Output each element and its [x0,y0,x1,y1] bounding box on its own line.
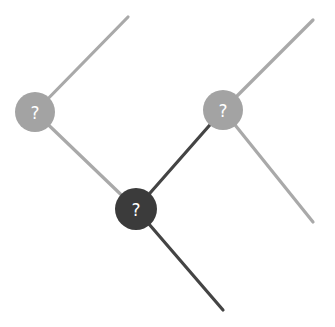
nodes-group: ??? [15,90,243,230]
node-label: ? [218,101,227,121]
node-label: ? [131,200,140,220]
edge-left-center [35,112,136,209]
tree-diagram: ??? [0,0,335,327]
node-center: ? [115,188,157,230]
node-label: ? [30,103,39,123]
edge-right-lower-right-end [223,110,313,222]
edges-group [35,17,313,310]
node-left: ? [15,92,55,132]
node-right: ? [203,90,243,130]
